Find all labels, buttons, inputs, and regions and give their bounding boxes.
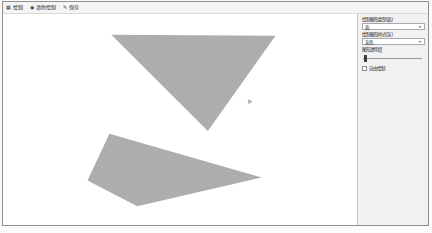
toolbar-item-clear-label: 清除绘制 [36, 5, 56, 10]
toolbar-item-draw-label: 绘制 [13, 5, 23, 10]
opacity-slider[interactable] [362, 54, 423, 63]
style-select[interactable]: 灰色 ▼ [362, 38, 425, 45]
chevron-down-icon: ▼ [418, 40, 422, 44]
sidebar-panel: 绘制图形类型(面) 面 ▼ 绘制图形样式(灰) 灰色 ▼ 图形透明度 自由绘制 [357, 14, 428, 225]
main-area: 绘制图形类型(面) 面 ▼ 绘制图形样式(灰) 灰色 ▼ 图形透明度 自由绘制 [3, 14, 428, 225]
drawing-canvas[interactable] [3, 14, 357, 225]
small-mark[interactable] [248, 99, 253, 104]
quadrilateral-shape[interactable] [88, 134, 262, 206]
toolbar-item-save[interactable]: ✎ 保存 [63, 5, 79, 10]
opacity-slider-label: 图形透明度 [362, 47, 425, 53]
toolbar-item-clear[interactable]: ◉ 清除绘制 [30, 5, 56, 10]
slider-handle[interactable] [364, 55, 367, 62]
toolbar-item-draw[interactable]: ▦ 绘制 [6, 5, 23, 10]
circle-icon: ◉ [30, 5, 34, 10]
style-select-value: 灰色 [365, 39, 373, 45]
freehand-checkbox-row: 自由绘制 [362, 66, 425, 71]
triangle-shape[interactable] [111, 35, 275, 131]
pen-icon: ✎ [63, 5, 67, 10]
grid-icon: ▦ [6, 5, 11, 10]
slider-track [363, 58, 422, 59]
app-window: ▦ 绘制 ◉ 清除绘制 ✎ 保存 绘制图形类型(面) 面 ▼ 绘制图形样式(灰)… [2, 1, 429, 226]
chevron-down-icon: ▼ [418, 25, 422, 29]
freehand-checkbox-label: 自由绘制 [369, 66, 385, 71]
freehand-checkbox[interactable] [362, 66, 367, 71]
toolbar-item-save-label: 保存 [69, 5, 79, 10]
toolbar: ▦ 绘制 ◉ 清除绘制 ✎ 保存 [3, 2, 428, 14]
canvas-svg [3, 14, 357, 225]
type-select-value: 面 [365, 24, 369, 30]
type-select[interactable]: 面 ▼ [362, 23, 425, 30]
